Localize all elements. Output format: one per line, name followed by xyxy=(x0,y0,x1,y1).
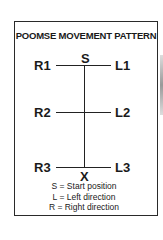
page-edge-shadow xyxy=(160,55,163,115)
legend-right: R = Right direction xyxy=(11,202,157,213)
legend-left: L = Left direction xyxy=(11,192,157,203)
r1-label: R1 xyxy=(34,59,51,72)
poomse-diagram-box: POOMSE MOVEMENT PATTERN S R1 L1 R2 L2 R3… xyxy=(14,21,158,216)
l1-label: L1 xyxy=(115,59,130,72)
legend-start: S = Start position xyxy=(11,181,157,192)
start-label: S xyxy=(81,52,90,65)
l2-label: L2 xyxy=(115,106,130,119)
legend: S = Start position L = Left direction R … xyxy=(15,181,157,213)
r2-label: R2 xyxy=(34,106,51,119)
diagram-title: POOMSE MOVEMENT PATTERN xyxy=(15,30,157,41)
vertical-path-line xyxy=(84,65,85,167)
l3-label: L3 xyxy=(115,161,130,174)
r3-label: R3 xyxy=(34,161,51,174)
row2-line xyxy=(56,112,111,113)
row3-line xyxy=(56,167,111,168)
row1-line xyxy=(56,65,111,66)
